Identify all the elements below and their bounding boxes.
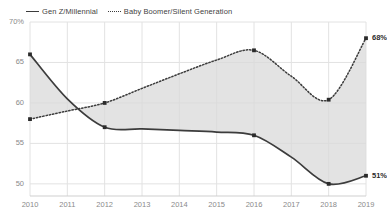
- y-axis-tick-label: 65: [2, 57, 24, 66]
- data-point-marker[interactable]: [28, 52, 32, 56]
- data-point-marker[interactable]: [103, 101, 107, 105]
- x-axis-tick-label: 2012: [87, 200, 123, 209]
- x-axis-tick-label: 2015: [199, 200, 235, 209]
- data-point-value-label: 68%: [372, 33, 387, 42]
- data-point-marker[interactable]: [364, 36, 368, 40]
- data-point-marker[interactable]: [327, 98, 331, 102]
- data-point-marker[interactable]: [327, 182, 331, 186]
- x-axis-tick-label: 2019: [348, 200, 384, 209]
- x-axis-tick-label: 2013: [124, 200, 160, 209]
- y-axis-tick-label: 70%: [2, 17, 24, 26]
- x-axis-tick-label: 2018: [311, 200, 347, 209]
- y-axis-tick-label: 55: [2, 138, 24, 147]
- data-point-value-label: 51%: [372, 171, 387, 180]
- y-axis-tick-label: 60: [2, 98, 24, 107]
- y-axis-tick-label: 50: [2, 179, 24, 188]
- data-point-marker[interactable]: [252, 133, 256, 137]
- data-point-marker[interactable]: [28, 117, 32, 121]
- data-point-marker[interactable]: [364, 174, 368, 178]
- x-axis-tick-label: 2010: [12, 200, 48, 209]
- x-axis-tick-label: 2017: [273, 200, 309, 209]
- data-point-marker[interactable]: [252, 48, 256, 52]
- data-point-marker[interactable]: [103, 125, 107, 129]
- x-axis-tick-label: 2016: [236, 200, 272, 209]
- x-axis-tick-label: 2011: [49, 200, 85, 209]
- x-axis-tick-label: 2014: [161, 200, 197, 209]
